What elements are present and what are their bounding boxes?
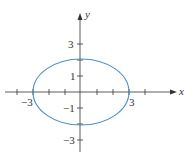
y-tick-label-neg3: −3 [63,134,75,146]
y-axis-arrow-icon [78,13,83,20]
y-tick-label-neg1: −1 [63,102,75,114]
chart-canvas: y x −3 3 3 1 −1 −3 [0,0,196,155]
y-axis-label: y [84,8,90,20]
x-axis-label: x [178,85,184,97]
x-tick-label-neg3: −3 [21,96,33,108]
y-tick-label-pos1: 1 [70,70,76,82]
x-axis-arrow-icon [170,90,177,95]
x-tick-label-pos3: 3 [129,96,135,108]
y-tick-label-pos3: 3 [68,38,74,50]
